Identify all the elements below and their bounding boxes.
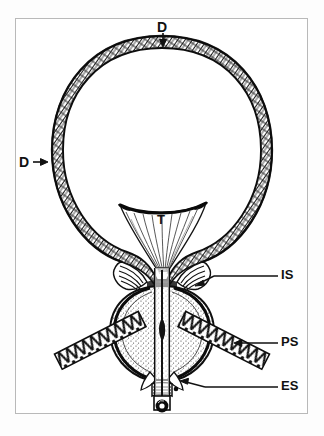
leader-external-sphincter — [180, 378, 278, 387]
label-trigone: T — [157, 213, 165, 226]
leader-pelvic-striated — [234, 340, 278, 347]
anatomy-figure: D D T IS PS ES — [0, 0, 324, 436]
label-detrusor-top: D — [157, 20, 167, 34]
label-periurethral-striated: PS — [281, 335, 299, 348]
label-internal-sphincter: IS — [281, 268, 294, 281]
label-external-sphincter: ES — [281, 379, 299, 392]
urethra — [154, 268, 170, 412]
leader-detrusor-left — [33, 159, 48, 166]
label-detrusor-left: D — [19, 155, 29, 169]
